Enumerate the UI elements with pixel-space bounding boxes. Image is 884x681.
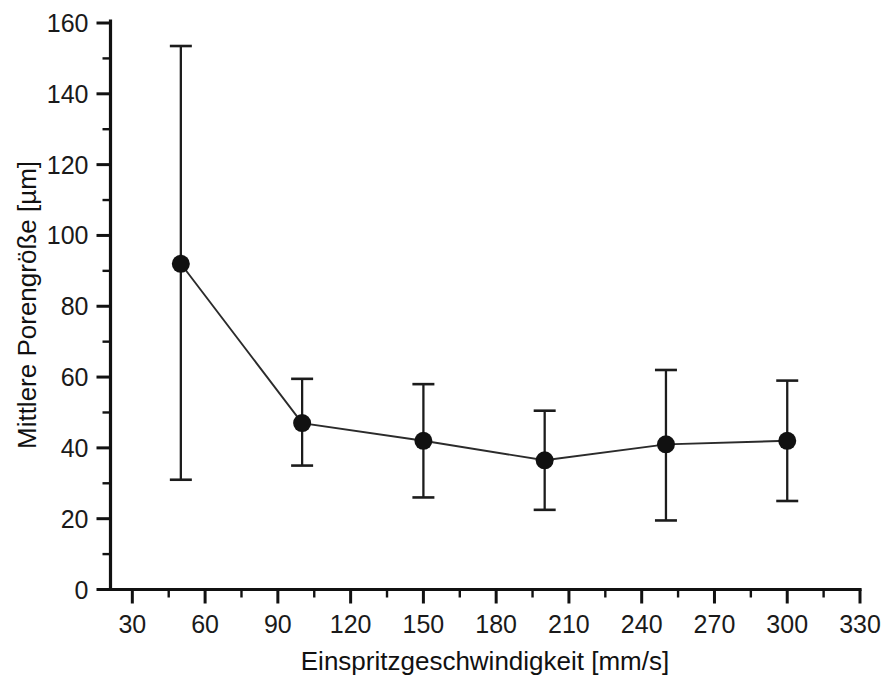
chart-page: 020406080100120140160 Mittlere Porengröß…: [0, 0, 884, 681]
y-tick-label: 140: [47, 80, 89, 108]
y-tick-label: 40: [61, 434, 89, 462]
data-point-marker: [293, 414, 311, 432]
x-axis-title: Einspritzgeschwindigkeit [mm/s]: [301, 646, 669, 676]
x-tick-label: 120: [330, 610, 372, 638]
data-point-marker: [778, 432, 796, 450]
data-point-marker: [536, 451, 554, 469]
x-tick-label: 270: [694, 610, 736, 638]
pore-size-vs-injection-speed-chart: 020406080100120140160 Mittlere Porengröß…: [0, 0, 884, 681]
y-tick-label: 0: [75, 576, 89, 604]
y-tick-label: 160: [47, 9, 89, 37]
x-tick-label: 210: [548, 610, 590, 638]
y-tick-label: 120: [47, 151, 89, 179]
y-axis-title: Mittlere Porengröße [µm]: [12, 161, 42, 449]
x-tick-label: 180: [475, 610, 517, 638]
y-tick-label: 60: [61, 363, 89, 391]
x-tick-label: 240: [621, 610, 663, 638]
x-tick-label: 90: [264, 610, 292, 638]
data-point-marker: [172, 255, 190, 273]
data-point-marker: [414, 432, 432, 450]
x-tick-label: 30: [118, 610, 146, 638]
data-point-marker: [657, 435, 675, 453]
x-tick-label: 330: [839, 610, 881, 638]
x-tick-label: 300: [766, 610, 808, 638]
y-tick-label: 100: [47, 221, 89, 249]
x-tick-label: 60: [191, 610, 219, 638]
chart-background: [0, 0, 884, 681]
x-tick-label: 150: [403, 610, 445, 638]
y-tick-label: 20: [61, 505, 89, 533]
y-tick-label: 80: [61, 292, 89, 320]
